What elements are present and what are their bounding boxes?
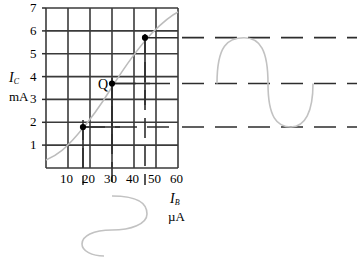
xtick-40: 40 (126, 172, 139, 185)
xtick-60: 60 (170, 172, 183, 185)
xtick-50: 50 (148, 172, 161, 185)
ytick-3: 3 (30, 92, 37, 105)
ytick-6: 6 (30, 24, 37, 37)
q-point-label: Q (98, 78, 108, 92)
xtick-20: 20 (82, 172, 95, 185)
figure-svg (0, 0, 357, 267)
lower-swing-point[interactable] (80, 124, 86, 130)
xtick-30: 30 (104, 172, 117, 185)
ytick-4: 4 (30, 70, 37, 83)
output-level-dashes (182, 38, 357, 127)
base-current-sine (82, 196, 147, 256)
figure-canvas: IC mA IB µA Q 7 6 5 4 3 2 1 10 20 30 40 … (0, 0, 357, 267)
xtick-10: 10 (60, 172, 73, 185)
ytick-1: 1 (30, 138, 37, 151)
x-axis-unit: µA (168, 210, 185, 223)
collector-current-sine (217, 38, 313, 127)
upper-swing-point[interactable] (142, 35, 148, 41)
y-axis-symbol: IC (9, 71, 19, 86)
ytick-5: 5 (30, 47, 37, 60)
q-point-marker[interactable] (109, 80, 115, 86)
ytick-2: 2 (30, 115, 37, 128)
y-axis-unit: mA (9, 90, 29, 103)
ytick-7: 7 (30, 1, 37, 14)
x-axis-symbol: IB (170, 192, 180, 207)
input-waveform-group (82, 196, 147, 256)
output-waveform-group (182, 38, 357, 127)
